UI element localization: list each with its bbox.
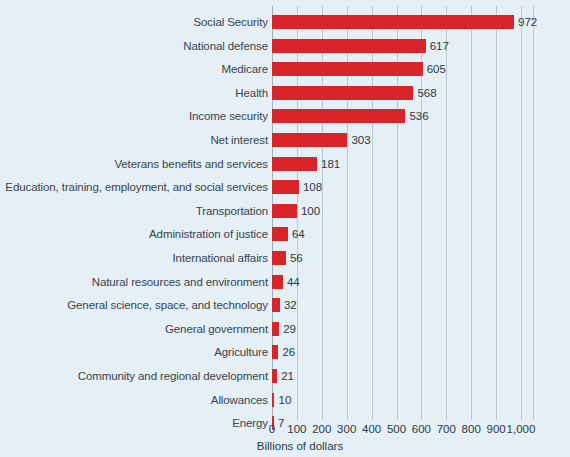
bar	[272, 157, 317, 171]
bar	[272, 39, 426, 53]
bar	[272, 133, 347, 147]
category-label: Veterans benefits and services	[114, 156, 268, 172]
bar-row: Agriculture26	[0, 344, 570, 360]
bar-value-label: 617	[430, 38, 449, 54]
bar	[272, 86, 413, 100]
bar	[272, 275, 283, 289]
category-label: Energy	[232, 415, 268, 431]
bar	[272, 62, 423, 76]
category-label: Allowances	[211, 392, 268, 408]
bar-row: General government29	[0, 321, 570, 337]
bar-rows: Social Security972National defense617Med…	[0, 0, 570, 414]
bar-value-label: 26	[282, 344, 295, 360]
bar-value-label: 568	[417, 85, 436, 101]
bar-row: Allowances10	[0, 392, 570, 408]
bar-row: National defense617	[0, 38, 570, 54]
category-label: Community and regional development	[78, 368, 268, 384]
bar-row: General science, space, and technology32	[0, 297, 570, 313]
bar-value-label: 303	[351, 132, 370, 148]
category-label: Social Security	[193, 14, 268, 30]
bar	[272, 204, 297, 218]
bar-row: International affairs56	[0, 250, 570, 266]
category-label: General science, space, and technology	[67, 297, 268, 313]
bar	[272, 227, 288, 241]
category-label: Agriculture	[214, 344, 268, 360]
bar-row: Social Security972	[0, 14, 570, 30]
bar-value-label: 44	[287, 274, 300, 290]
bar-value-label: 29	[283, 321, 296, 337]
bar-row: Administration of justice64	[0, 226, 570, 242]
x-tick-label: 500	[387, 423, 406, 435]
bar-row: Veterans benefits and services181	[0, 156, 570, 172]
x-tick-label: 800	[462, 423, 481, 435]
bar-value-label: 56	[290, 250, 303, 266]
bar-value-label: 181	[321, 156, 340, 172]
bar-row: Net interest303	[0, 132, 570, 148]
x-tick-label: 1,000	[507, 423, 536, 435]
x-tick-label: 300	[337, 423, 356, 435]
bar-row: Energy7	[0, 415, 570, 431]
bar-row: Income security536	[0, 108, 570, 124]
category-label: Net interest	[210, 132, 268, 148]
x-axis-title-label: Billions of dollars	[257, 440, 343, 452]
x-tick-label: 0	[269, 423, 275, 435]
bar	[272, 393, 274, 407]
bar-row: Community and regional development21	[0, 368, 570, 384]
category-label: International affairs	[173, 250, 269, 266]
bar-row: Education, training, employment, and soc…	[0, 179, 570, 195]
bar-value-label: 21	[281, 368, 294, 384]
category-label: Health	[235, 85, 268, 101]
category-label: Natural resources and environment	[92, 274, 268, 290]
category-label: National defense	[183, 38, 268, 54]
bar	[272, 15, 514, 29]
bar-value-label: 100	[301, 203, 320, 219]
bar-value-label: 108	[303, 179, 322, 195]
bar-chart: Social Security972National defense617Med…	[0, 0, 570, 457]
category-label: General government	[165, 321, 268, 337]
x-tick-label: 600	[412, 423, 431, 435]
bar-row: Medicare605	[0, 61, 570, 77]
bar-value-label: 32	[284, 297, 297, 313]
bar-value-label: 536	[409, 108, 428, 124]
category-label: Transportation	[196, 203, 268, 219]
x-axis-title: Billions of dollars	[0, 440, 570, 452]
bar	[272, 109, 405, 123]
bar	[272, 251, 286, 265]
bar	[272, 322, 279, 336]
x-tick-label: 100	[287, 423, 306, 435]
category-label: Education, training, employment, and soc…	[5, 179, 268, 195]
x-tick-label: 700	[437, 423, 456, 435]
bar	[272, 345, 278, 359]
bar-row: Transportation100	[0, 203, 570, 219]
bar-row: Natural resources and environment44	[0, 274, 570, 290]
bar	[272, 369, 277, 383]
bar-value-label: 7	[278, 415, 284, 431]
bar-row: Health568	[0, 85, 570, 101]
x-tick-label: 200	[312, 423, 331, 435]
bar-value-label: 10	[278, 392, 291, 408]
category-label: Income security	[189, 108, 268, 124]
bar-value-label: 64	[292, 226, 305, 242]
bar	[272, 180, 299, 194]
category-label: Administration of justice	[149, 226, 268, 242]
bar-value-label: 605	[427, 61, 446, 77]
bar	[272, 298, 280, 312]
bar-value-label: 972	[518, 14, 537, 30]
category-label: Medicare	[222, 61, 269, 77]
x-tick-label: 900	[487, 423, 506, 435]
x-tick-label: 400	[362, 423, 381, 435]
